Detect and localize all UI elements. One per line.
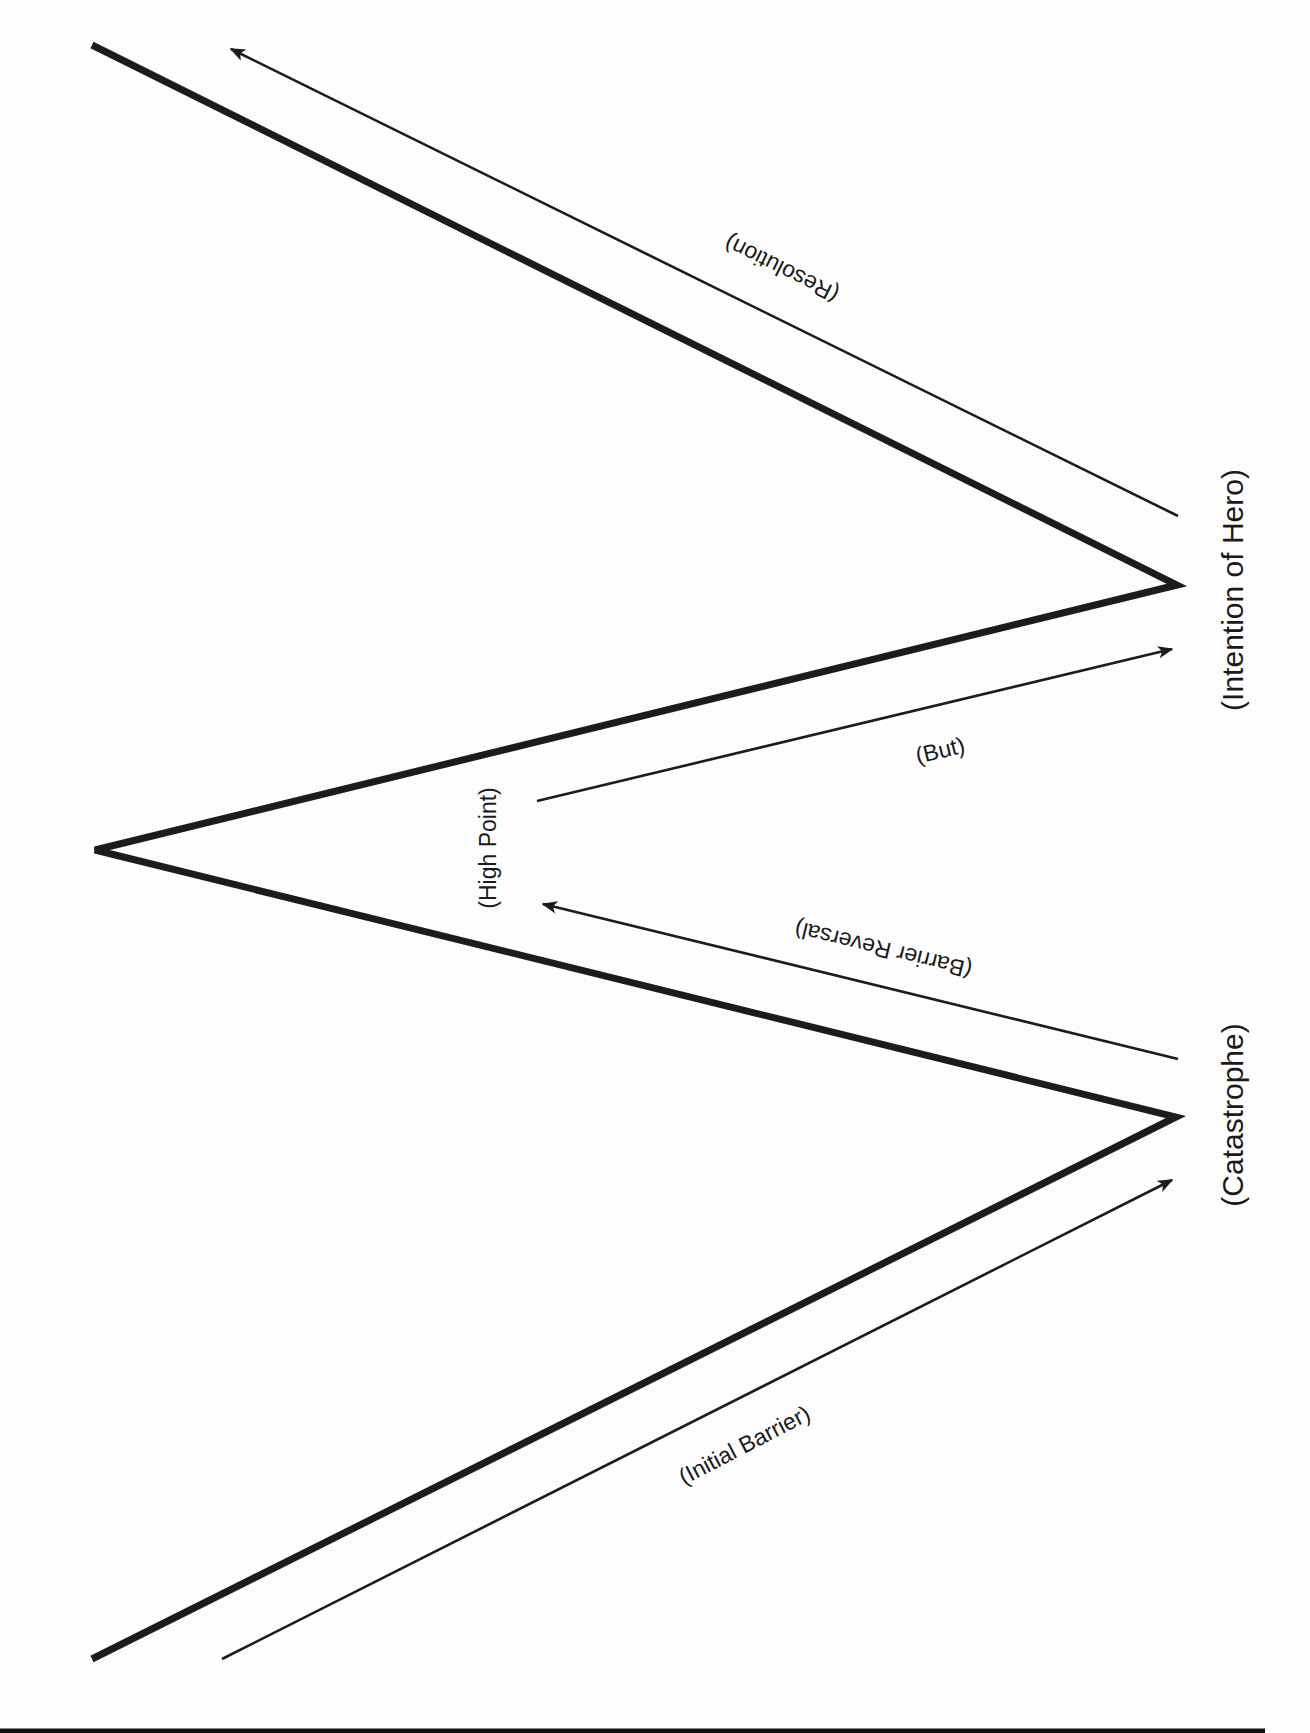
initial-barrier-arrow — [222, 1180, 1172, 1659]
label-but: (But) — [913, 732, 968, 769]
story-structure-diagram: (Catastrophe) (Intention of Hero) (High … — [0, 0, 1310, 1733]
label-catastrophe: (Catastrophe) — [1216, 1023, 1249, 1206]
label-initial-barrier: (Initial Barrier) — [674, 1400, 814, 1490]
label-high-point: (High Point) — [475, 787, 501, 908]
resolution-arrow — [231, 49, 1178, 516]
but-arrow — [537, 649, 1172, 801]
main-zigzag-line — [92, 45, 1177, 1659]
label-intention-of-hero: (Intention of Hero) — [1216, 469, 1249, 711]
label-resolution: (Resolution) — [720, 230, 843, 308]
label-barrier-reversal: (Barrier Reversal) — [792, 916, 975, 984]
